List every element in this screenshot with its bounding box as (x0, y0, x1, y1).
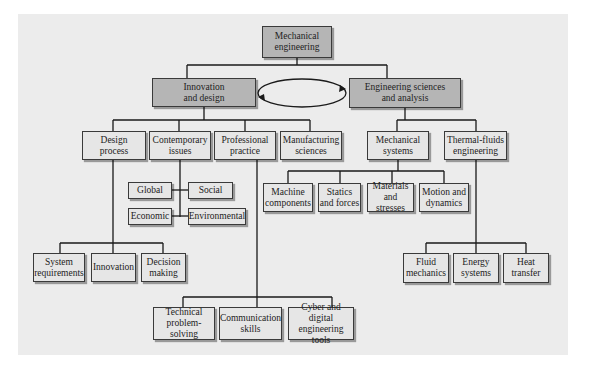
node-thermal-fluids-engineering: Thermal-fluids engineering (444, 131, 507, 160)
node-statics-and-forces: Statics and forces (318, 183, 361, 212)
node-design-process: Design process (82, 131, 146, 160)
node-environmental: Environmental (188, 208, 246, 225)
node-engineering-sciences-and-analysis: Engineering sciences and analysis (349, 78, 461, 108)
node-cyber-and-digital-engineering-tools: Cyber and digital engineering tools (288, 307, 354, 340)
node-technical-problem-solving: Technical problem-solving (153, 307, 215, 340)
node-manufacturing-sciences: Manufacturing sciences (280, 131, 342, 160)
node-innovation-and-design: Innovation and design (152, 78, 256, 107)
node-system-requirements: System requirements (33, 253, 85, 282)
node-communication-skills: Communication skills (219, 307, 282, 340)
node-contemporary-issues: Contemporary issues (149, 131, 211, 160)
node-energy-systems: Energy systems (453, 253, 499, 283)
node-fluid-mechanics: Fluid mechanics (403, 253, 449, 283)
node-motion-and-dynamics: Motion and dynamics (419, 183, 469, 212)
node-social: Social (188, 182, 233, 199)
node-decision-making: Decision making (141, 253, 186, 282)
node-mechanical-engineering: Mechanical engineering (262, 26, 332, 58)
node-machine-components: Machine components (263, 183, 313, 212)
node-economic: Economic (128, 208, 172, 225)
node-innovation: Innovation (91, 253, 136, 282)
node-mechanical-systems: Mechanical systems (367, 131, 429, 160)
node-heat-transfer: Heat transfer (503, 253, 549, 283)
node-global: Global (128, 182, 172, 199)
node-materials-and-stresses: Materials and stresses (367, 183, 414, 212)
node-professional-practice: Professional practice (214, 131, 276, 160)
